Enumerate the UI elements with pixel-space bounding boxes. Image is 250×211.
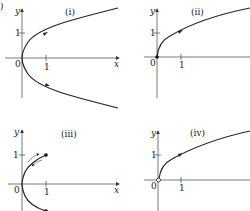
x-tick-label: 1 (179, 183, 185, 193)
x-axis-label: x (114, 185, 119, 195)
panel-title: (ii) (191, 7, 204, 17)
parametric-curves-figure: ) y x 1 1 0 (i) y 1 1 0 (ii) y (0, 0, 250, 211)
x-axis-label: x (114, 59, 119, 69)
y-axis-label: y (149, 6, 156, 16)
panel-iv: y 1 1 0 (iv) (144, 128, 250, 211)
x-tick-label: 1 (179, 60, 185, 70)
y-axis-label: y (14, 6, 21, 16)
sqrt-curve (159, 131, 250, 179)
panel-title: (iii) (61, 129, 77, 139)
x-tick-label: 1 (44, 187, 50, 197)
panel-title: (iv) (190, 128, 205, 138)
origin-label: 0 (151, 181, 157, 191)
direction-arrow-icon (178, 153, 183, 157)
y-axis-label: y (13, 127, 20, 137)
endpoint-top (44, 153, 48, 157)
forward-arrow-icon (28, 154, 39, 162)
y-tick-label: 1 (13, 150, 19, 160)
corner-label: ) (0, 1, 4, 11)
y-tick-label: 1 (15, 28, 21, 38)
origin-label: 0 (150, 58, 156, 68)
endpoint-bottom (44, 209, 48, 211)
start-point (155, 55, 159, 59)
panel-i: y x 1 1 0 (i) (5, 6, 119, 108)
open-start-point (157, 178, 161, 182)
y-axis-label: y (150, 128, 157, 138)
origin-label: 0 (15, 59, 21, 69)
parabola-segment-curve (22, 155, 46, 211)
panel-iii: y x 1 1 0 (iii) (8, 127, 119, 211)
y-tick-label: 1 (150, 28, 156, 38)
direction-arrow-icon (45, 83, 50, 86)
y-tick-label: 1 (151, 150, 157, 160)
origin-label: 0 (14, 185, 20, 195)
panel-title: (i) (65, 7, 75, 17)
x-tick-label: 1 (44, 62, 50, 72)
panel-ii: y 1 1 0 (ii) (144, 6, 250, 98)
direction-arrow-icon (43, 32, 48, 36)
